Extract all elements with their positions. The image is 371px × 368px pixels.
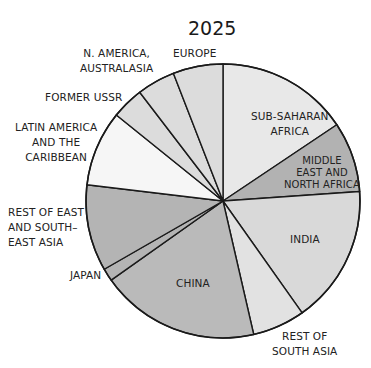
chart-title: 2025 — [188, 17, 236, 39]
label-rest-of-south-asia: REST OF SOUTH ASIA — [272, 329, 337, 359]
label-india: INDIA — [290, 232, 320, 247]
label-former-ussr: FORMER USSR — [45, 90, 122, 105]
label-japan: JAPAN — [70, 268, 101, 283]
label-middle-east-north-africa: MIDDLE EAST AND NORTH AFRICA — [284, 155, 360, 191]
pie-slices — [86, 64, 360, 338]
label-europe: EUROPE — [173, 46, 216, 61]
label-latin-america-caribbean: LATIN AMERICA AND THE CARIBBEAN — [15, 120, 97, 165]
label-sub-saharan-africa: SUB-SAHARAN AFRICA — [251, 109, 328, 139]
label-china: CHINA — [176, 276, 210, 291]
label-rest-of-east-southeast-asia: REST OF EAST AND SOUTH– EAST ASIA — [8, 205, 84, 250]
label-n-america-australasia: N. AMERICA, AUSTRALASIA — [80, 46, 153, 76]
